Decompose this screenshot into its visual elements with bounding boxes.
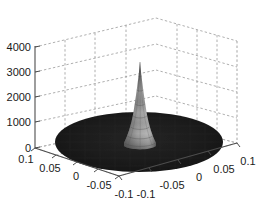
- y-tick-label: -0.05: [86, 179, 111, 191]
- x-tick-label: 0.1: [240, 155, 255, 167]
- figure-canvas: 4000 3000 2000 1000 0 0.1 0.05 0 -0.05 -…: [0, 0, 261, 213]
- y-tick-label: 0.1: [18, 153, 33, 165]
- x-tick-label: 0.05: [213, 163, 234, 175]
- z-tick-label: 2000: [7, 91, 31, 103]
- x-tick-label: -0.05: [159, 179, 184, 191]
- surface-peak: [124, 62, 156, 149]
- z-tick-label: 1000: [7, 116, 31, 128]
- z-tick-labels: 4000 3000 2000 1000 0: [7, 41, 31, 154]
- y-tick-label: -0.1: [115, 188, 134, 200]
- y-tick-label: 0: [73, 170, 79, 182]
- y-tick-label: 0.05: [39, 162, 60, 174]
- x-tick-label: -0.1: [137, 188, 156, 200]
- surface-plot: 4000 3000 2000 1000 0 0.1 0.05 0 -0.05 -…: [0, 0, 261, 213]
- z-tick-label: 4000: [7, 41, 31, 53]
- z-tick-label: 3000: [7, 66, 31, 78]
- x-tick-label: 0: [196, 171, 202, 183]
